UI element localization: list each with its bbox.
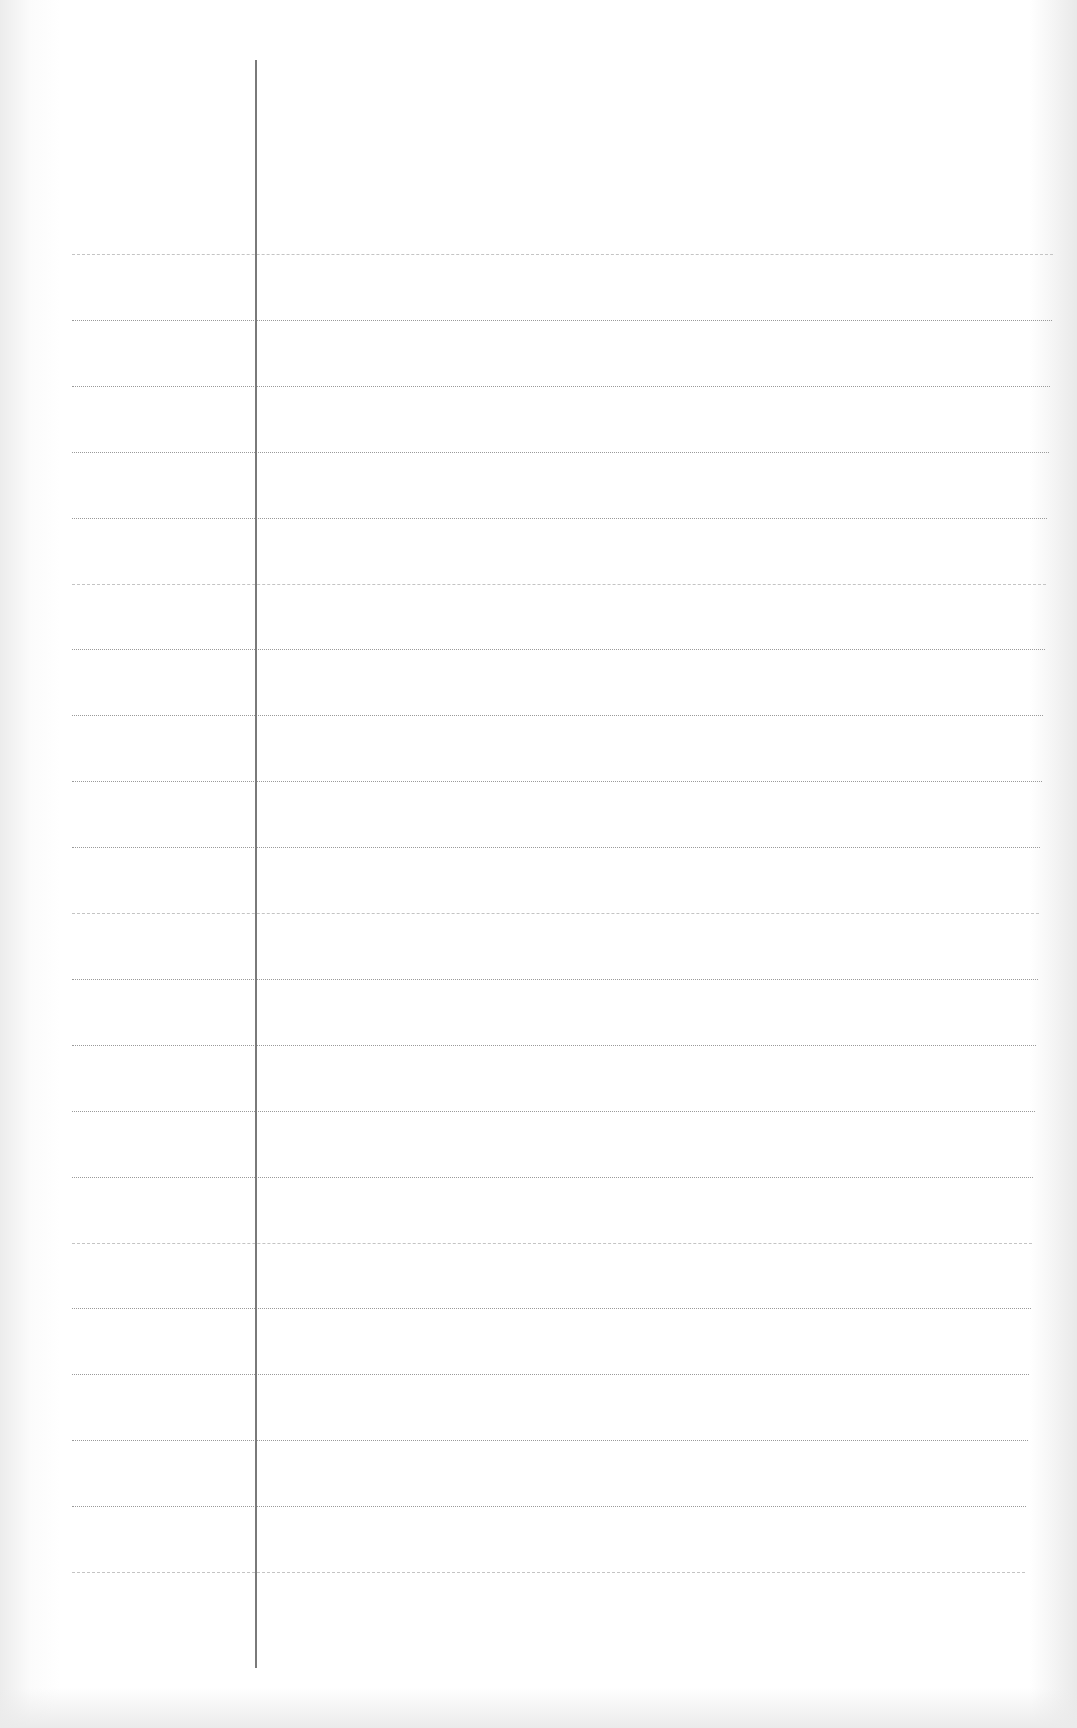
ruled-line — [72, 1506, 1026, 1507]
ruled-line — [72, 781, 1042, 782]
ruled-line — [72, 452, 1049, 453]
ruled-line — [72, 1111, 1035, 1112]
ruled-line — [72, 913, 1039, 914]
ruled-line — [72, 1177, 1033, 1178]
ruled-line — [72, 254, 1053, 255]
ruled-line — [72, 584, 1046, 585]
ruled-line — [72, 715, 1043, 716]
ruled-line — [72, 386, 1050, 387]
ruled-line — [72, 518, 1047, 519]
ruled-line — [72, 847, 1040, 848]
notebook-page — [0, 0, 1077, 1728]
ruled-line — [72, 320, 1052, 321]
ruled-line — [72, 1440, 1028, 1441]
ruled-line — [72, 1045, 1036, 1046]
ruled-line — [72, 1572, 1025, 1573]
margin-line — [255, 60, 257, 1668]
ruled-line — [72, 1374, 1029, 1375]
ruled-line — [72, 979, 1038, 980]
ruled-line — [72, 1243, 1032, 1244]
ruled-line — [72, 1308, 1031, 1309]
ruled-line — [72, 649, 1045, 650]
